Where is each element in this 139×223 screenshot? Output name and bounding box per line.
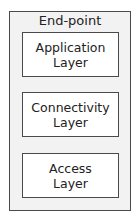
connectivity-layer-box: Connectivity Layer: [22, 92, 119, 137]
endpoint-container: End-point Application Layer Connectivity…: [9, 11, 131, 211]
connectivity-layer-label: Connectivity Layer: [31, 100, 109, 130]
access-layer-label: Access Layer: [49, 161, 92, 191]
endpoint-title: End-point: [10, 13, 130, 29]
access-layer-box: Access Layer: [22, 153, 119, 198]
diagram-canvas: End-point Application Layer Connectivity…: [0, 0, 139, 223]
application-layer-label: Application Layer: [36, 40, 106, 70]
application-layer-box: Application Layer: [22, 32, 119, 77]
